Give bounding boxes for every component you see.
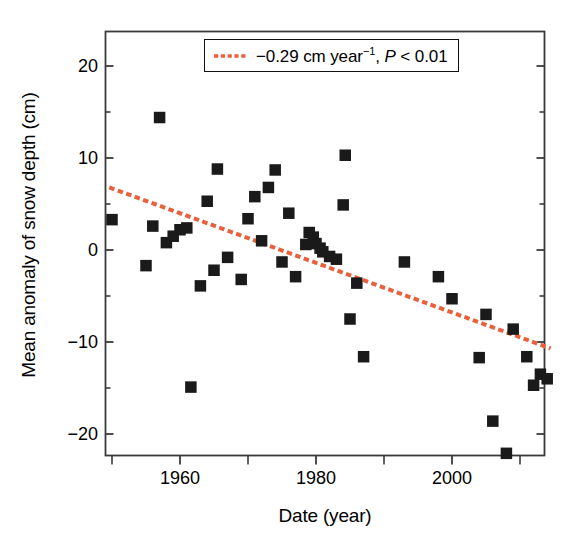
legend-box: −0.29 cm year−1, P < 0.01 [204, 39, 459, 72]
data-point-marker [195, 280, 207, 292]
data-point-marker [473, 352, 485, 364]
data-point-marker [208, 264, 220, 276]
data-point-marker [337, 199, 349, 211]
data-point-marker [154, 112, 166, 124]
data-point-marker [507, 323, 519, 335]
data-point-marker [256, 235, 268, 247]
x-tick-label: 1960 [160, 468, 200, 489]
data-point-marker [344, 313, 356, 325]
data-point-marker [249, 191, 260, 203]
legend-label: −0.29 cm year−1, P < 0.01 [256, 45, 448, 67]
data-point-marker [283, 207, 295, 219]
trend-line [109, 187, 550, 348]
data-point-marker [263, 182, 275, 194]
y-axis-title: Mean anomaly of snow depth (cm) [12, 5, 46, 465]
data-point-marker [222, 252, 234, 263]
data-point-marker [528, 379, 540, 391]
data-point-marker [521, 351, 533, 363]
data-point-marker [399, 256, 411, 268]
data-point-marker [541, 373, 553, 385]
x-tick-label: 1980 [296, 468, 336, 489]
data-point-marker [269, 164, 281, 176]
data-point-marker [358, 351, 370, 363]
x-axis-tick-labels: 196019802000 [0, 468, 565, 494]
data-point-marker [339, 149, 351, 161]
dashed-trend-line-swatch [213, 49, 247, 63]
data-point-marker [201, 195, 213, 207]
data-point-marker [140, 260, 152, 272]
data-point-marker [480, 309, 492, 321]
regression-trend-line [109, 187, 550, 348]
data-point-marker [351, 277, 363, 289]
data-point-marker [331, 253, 343, 265]
data-point-marker [276, 256, 288, 268]
data-point-marker [446, 293, 458, 305]
x-tick-label: 2000 [432, 468, 472, 489]
data-point-marker [181, 222, 193, 234]
data-point-marker [212, 163, 224, 175]
snow-depth-anomaly-chart: 20100−10−20 196019802000 Mean anomaly of… [0, 0, 565, 547]
data-point-marker [501, 448, 513, 460]
data-point-marker [185, 381, 197, 393]
data-point-marker [290, 271, 302, 283]
data-points [106, 112, 553, 459]
x-axis-title: Date (year) [105, 505, 545, 527]
data-point-marker [235, 274, 247, 286]
data-point-marker [487, 415, 499, 427]
data-point-marker [106, 214, 118, 226]
data-point-marker [242, 213, 254, 225]
data-point-marker [433, 271, 445, 283]
data-point-marker [147, 220, 159, 232]
